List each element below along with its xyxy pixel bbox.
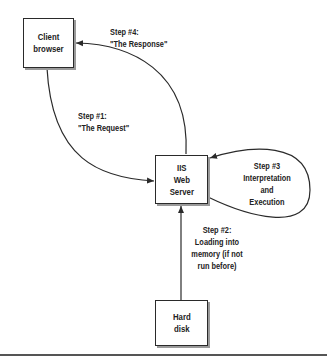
iis-web-server-label: IIS Web Server — [169, 162, 193, 198]
hard-disk-label: Hard disk — [173, 311, 191, 335]
step2-label: Step #2: Loading into memory (if not run… — [187, 224, 248, 272]
hard-disk-node: Hard disk — [155, 300, 208, 346]
client-browser-node: Client browser — [23, 18, 74, 68]
step1-label: Step #1: "The Request" — [78, 110, 129, 134]
bottom-rule — [0, 354, 327, 356]
step4-response-arrow — [76, 43, 186, 154]
step3-label: Step #3 Interpretation and Execution — [238, 160, 295, 208]
step4-label: Step #4: "The Response" — [110, 26, 167, 50]
iis-web-server-node: IIS Web Server — [155, 155, 208, 204]
client-browser-label: Client browser — [33, 31, 63, 55]
